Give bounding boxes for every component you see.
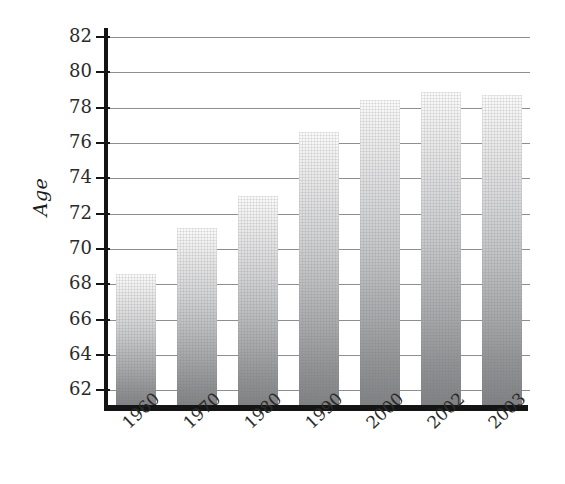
bar-texture [421,92,461,408]
plot-area [108,28,530,408]
y-tick-label-wrap: 72 [34,204,92,222]
y-tick-label-wrap: 68 [34,274,92,292]
y-tick-label: 64 [46,345,92,363]
y-tick-label-wrap: 64 [34,345,92,363]
bar[interactable] [299,132,339,408]
bar-texture [238,196,278,408]
bar[interactable] [238,196,278,408]
bar-chart: Age 6264666870727476788082 1960197019801… [0,0,565,484]
bar[interactable] [360,100,400,408]
y-tick-label: 78 [46,98,92,116]
y-tick-label-wrap: 66 [34,310,92,328]
bar[interactable] [177,228,217,408]
bar[interactable] [421,92,461,408]
y-axis-line [104,28,108,410]
y-tick-label: 62 [46,380,92,398]
y-tick-label: 72 [46,204,92,222]
y-tick-label: 76 [46,133,92,151]
y-tick-label: 68 [46,274,92,292]
y-tick-label: 70 [46,239,92,257]
y-tick-label: 80 [46,62,92,80]
bar-texture [177,228,217,408]
y-tick-label: 66 [46,310,92,328]
y-tick-label-wrap: 82 [34,27,92,45]
bar-texture [299,132,339,408]
y-tick-label-wrap: 80 [34,62,92,80]
bar-texture [482,95,522,408]
bar[interactable] [482,95,522,408]
y-tick-label: 82 [46,27,92,45]
bar-texture [360,100,400,408]
y-tick-label-wrap: 76 [34,133,92,151]
y-tick-label-wrap: 78 [34,98,92,116]
y-tick-label-wrap: 62 [34,380,92,398]
y-tick-label-wrap: 74 [34,168,92,186]
y-tick-label-wrap: 70 [34,239,92,257]
y-tick-label: 74 [46,168,92,186]
